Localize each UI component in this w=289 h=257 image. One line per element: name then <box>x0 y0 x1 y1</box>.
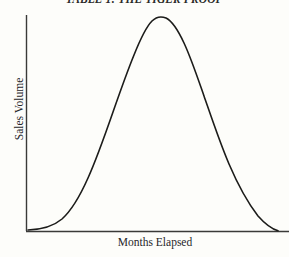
plot-area <box>0 0 289 257</box>
x-axis-label: Months Elapsed <box>26 236 284 248</box>
y-axis-label: Sales Volume <box>13 49 25 169</box>
sales-volume-curve <box>28 17 278 231</box>
chart-figure: TABLE 1: THE TIGER PROOF Sales Volume Mo… <box>0 0 289 257</box>
